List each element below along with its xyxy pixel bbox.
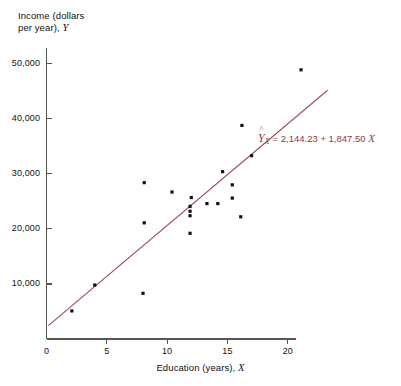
x-axis-variable: X	[238, 362, 245, 373]
data-point	[216, 202, 219, 205]
y-tick-label: 20,000	[0, 223, 40, 233]
y-tick-label: 10,000	[0, 278, 40, 288]
data-point	[70, 309, 73, 312]
data-point	[231, 183, 234, 186]
scatter-plot-figure: Income (dollars per year), Y 10,00020,00…	[0, 0, 401, 386]
x-tick-label: 20	[273, 346, 303, 356]
equation-body: = 2,144.23 + 1,847.50	[273, 133, 369, 144]
equation-x-variable: X	[368, 132, 375, 144]
y-tick-label: 40,000	[0, 113, 40, 123]
y-tick-label: 30,000	[0, 168, 40, 178]
data-point	[93, 283, 96, 286]
data-point	[299, 68, 302, 71]
data-point	[205, 202, 208, 205]
hat-accent: ^	[258, 124, 265, 134]
regression-equation: ^YX= 2,144.23 + 1,847.50 X	[258, 131, 375, 146]
data-point	[250, 154, 253, 157]
data-point	[143, 221, 146, 224]
x-tick-label: 10	[152, 346, 182, 356]
plot-canvas	[0, 0, 401, 386]
regression-line	[48, 90, 327, 325]
data-point	[188, 205, 191, 208]
data-point	[239, 215, 242, 218]
equation-yhat: ^Y	[258, 131, 265, 145]
axis-ticks	[47, 64, 288, 344]
x-tick-label: 5	[92, 346, 122, 356]
data-point	[231, 196, 234, 199]
data-points	[70, 68, 302, 312]
data-point	[188, 210, 191, 213]
data-point	[141, 292, 144, 295]
data-point	[221, 170, 224, 173]
data-point	[188, 214, 191, 217]
equation-subscript: X	[265, 137, 270, 146]
x-axis-label: Education (years), X	[0, 362, 401, 373]
regression-line-path	[48, 90, 327, 325]
data-point	[188, 232, 191, 235]
data-point	[240, 124, 243, 127]
x-tick-label: 15	[212, 346, 242, 356]
data-point	[170, 190, 173, 193]
x-axis-label-text: Education (years),	[156, 362, 238, 373]
data-point	[143, 181, 146, 184]
y-tick-label: 50,000	[0, 58, 40, 68]
data-point	[190, 196, 193, 199]
x-tick-label: 0	[32, 346, 62, 356]
